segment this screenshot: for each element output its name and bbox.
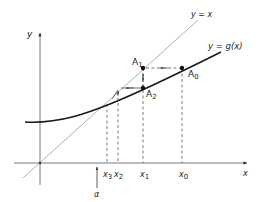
dashed-verticals bbox=[107, 68, 182, 163]
identity-line-label: y = x bbox=[190, 10, 213, 19]
tick-x1: x1 bbox=[139, 170, 149, 181]
point-a2 bbox=[141, 86, 145, 90]
cobweb-diagram: y x y = x y = g(x) A0 A1 A2 x3 x2 x1 x0 … bbox=[0, 0, 259, 202]
tick-x2: x2 bbox=[113, 170, 123, 181]
tick-x0: x0 bbox=[178, 170, 188, 181]
curve-g bbox=[25, 52, 221, 122]
point-a2-label: A2 bbox=[146, 89, 157, 101]
x-axis-label: x bbox=[242, 169, 248, 178]
alpha-label: α bbox=[94, 190, 100, 199]
point-a0-label: A0 bbox=[188, 69, 199, 81]
curve-label: y = g(x) bbox=[207, 41, 243, 51]
point-a0 bbox=[180, 66, 184, 70]
identity-line bbox=[23, 20, 198, 178]
point-a1-label: A1 bbox=[132, 57, 143, 69]
y-axis-label: y bbox=[26, 29, 33, 39]
origin-dot bbox=[39, 162, 41, 164]
tick-x3: x3 bbox=[102, 170, 112, 181]
